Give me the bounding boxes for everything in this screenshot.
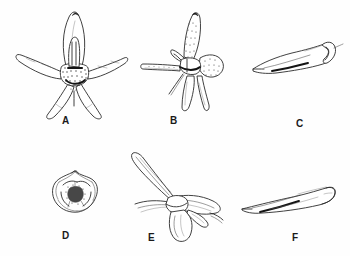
panel-label-d: D (62, 231, 70, 241)
panel-a-flower-front-view (12, 6, 130, 118)
panel-e-flower-side-view-with-spur (116, 150, 236, 242)
panel-c-lip-lateral-view (250, 38, 345, 83)
panel-label-f: F (292, 233, 298, 243)
panel-f-lip-profile-view (240, 182, 340, 224)
panel-b-flower-lateral-view (140, 10, 245, 120)
panel-c-drawing (250, 38, 345, 83)
panel-a-drawing (12, 6, 130, 118)
panel-label-a: A (62, 116, 70, 126)
panel-b-drawing (140, 10, 245, 120)
panel-d-drawing (48, 168, 104, 220)
panel-label-b: B (170, 116, 178, 126)
illustration-plate: A (0, 0, 350, 256)
panel-f-drawing (240, 182, 340, 224)
panel-e-drawing (116, 150, 236, 242)
panel-label-c: C (296, 119, 304, 129)
panel-label-e: E (148, 233, 155, 243)
panel-d-flower-bud-compact-view (48, 168, 104, 220)
